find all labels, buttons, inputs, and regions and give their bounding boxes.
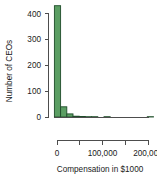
- x-tick-label-200000: 200,000: [133, 149, 157, 158]
- x-tick-label-0: 0: [55, 149, 60, 158]
- y-tick-label-100: 100: [27, 87, 41, 96]
- y-tick-label-200: 200: [27, 61, 41, 70]
- bar-bin-3: [67, 114, 73, 117]
- y-axis: [45, 14, 49, 117]
- histogram-figure: Number of CEOs 400 300 200 100 0: [0, 0, 157, 185]
- bar-bin-1: [54, 6, 60, 117]
- y-tick-label-300: 300: [27, 35, 41, 44]
- x-tick-label-100000: 100,000: [88, 149, 118, 158]
- x-axis-title: Compensation in $1000: [57, 165, 144, 174]
- x-axis: [57, 140, 148, 145]
- chart-svg: Number of CEOs 400 300 200 100 0: [0, 0, 157, 185]
- histogram-bars: [54, 6, 153, 117]
- y-tick-label-400: 400: [27, 10, 41, 19]
- y-tick-label-0: 0: [36, 113, 41, 122]
- bar-bin-2: [61, 107, 67, 117]
- y-axis-title: Number of CEOs: [5, 40, 14, 102]
